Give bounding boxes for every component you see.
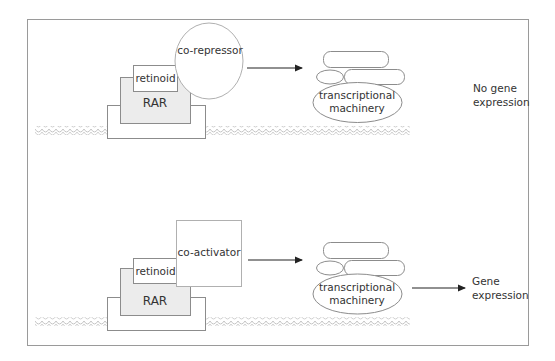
outcome-line1: Gene (472, 275, 500, 287)
rar-label: RAR (143, 294, 167, 308)
outcome-line1: No gene (473, 82, 517, 94)
retinoid-signaling-diagram: RAR retinoid co-repressor transcriptiona… (0, 0, 555, 361)
machinery-label-line2: machinery (329, 102, 385, 114)
machinery-label-line1: transcriptional (319, 281, 395, 293)
outcome-line2: expression (472, 289, 529, 301)
retinoid-label: retinoid (135, 265, 175, 277)
machinery-label-line1: transcriptional (319, 89, 395, 101)
dna-strand (35, 317, 410, 326)
retinoid-label: retinoid (135, 72, 175, 84)
co-repressor-circle (175, 23, 243, 99)
co-repressor-label: co-repressor (177, 44, 243, 56)
rar-label: RAR (143, 96, 167, 110)
machinery-label-line2: machinery (329, 294, 385, 306)
co-activator-label: co-activator (178, 246, 242, 258)
outcome-line2: expression (473, 96, 530, 108)
dna-strand (35, 126, 410, 135)
